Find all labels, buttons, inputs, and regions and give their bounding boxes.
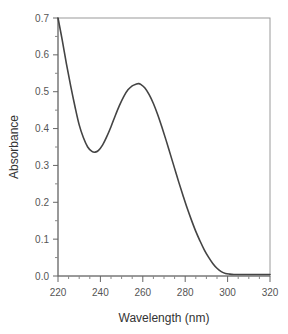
plot-frame: [58, 18, 270, 276]
x-tick-label: 320: [262, 287, 279, 298]
y-tick-label: 0.5: [35, 86, 49, 97]
y-tick-label: 0.7: [35, 13, 49, 24]
y-axis-label: Absorbance: [7, 115, 21, 179]
y-tick-label: 0.0: [35, 271, 49, 282]
y-tick-label: 0.2: [35, 197, 49, 208]
y-tick-label: 0.1: [35, 234, 49, 245]
x-axis-ticks: 220240260280300320: [50, 276, 279, 298]
y-tick-label: 0.4: [35, 123, 49, 134]
y-tick-label: 0.6: [35, 49, 49, 60]
x-tick-label: 220: [50, 287, 67, 298]
x-tick-label: 300: [219, 287, 236, 298]
x-tick-label: 240: [92, 287, 109, 298]
plot-border: [58, 18, 270, 276]
x-tick-label: 280: [177, 287, 194, 298]
absorbance-chart: 0.00.10.20.30.40.50.60.7 220240260280300…: [0, 0, 288, 334]
spectrum-series: [58, 18, 270, 275]
spectrum-line: [58, 18, 270, 275]
y-axis-ticks: 0.00.10.20.30.40.50.60.7: [35, 13, 58, 282]
x-axis-label: Wavelength (nm): [119, 311, 210, 325]
y-tick-label: 0.3: [35, 160, 49, 171]
x-tick-label: 260: [134, 287, 151, 298]
